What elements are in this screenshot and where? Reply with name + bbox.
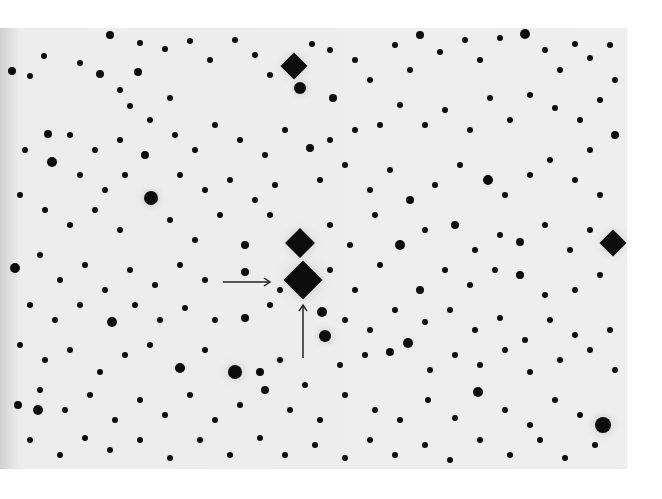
star [422,122,428,128]
star [542,222,548,228]
star [237,402,243,408]
star [392,42,398,48]
star [352,287,358,293]
bright-star [604,234,622,252]
star [77,60,83,66]
star [127,267,133,273]
star [67,347,73,353]
star [167,455,173,461]
star [132,302,138,308]
star [377,122,383,128]
star [572,332,578,338]
star [202,347,208,353]
star [277,287,283,293]
star [587,347,593,353]
star [472,247,478,253]
star [392,452,398,458]
star [592,442,598,448]
star [587,55,593,61]
star [403,338,413,348]
star [327,47,333,53]
star [177,262,183,268]
star [27,437,33,443]
star [197,437,203,443]
star [362,352,368,358]
star [192,237,198,243]
star [267,72,273,78]
star [27,73,33,79]
star [309,41,315,47]
star [347,242,353,248]
star [502,407,508,413]
star [492,267,498,273]
star [102,287,108,293]
star [33,405,43,415]
star [527,422,533,428]
star [452,352,458,358]
star [442,267,448,273]
bright-star [285,57,303,75]
star [256,368,264,376]
star [467,127,473,133]
star [497,35,503,41]
star [597,192,603,198]
star [102,187,108,193]
star [192,147,198,153]
star [10,263,20,273]
star [112,417,118,423]
star [377,262,383,268]
star [352,57,358,63]
star [352,127,358,133]
star [107,317,117,327]
star [477,362,483,368]
star [447,457,453,463]
star [327,137,333,143]
star [462,37,468,43]
star [317,177,323,183]
star [306,144,314,152]
star [612,367,618,373]
star [147,117,153,123]
star [406,196,414,204]
star [252,197,258,203]
star [416,31,424,39]
star [212,317,218,323]
star [272,182,278,188]
star [212,122,218,128]
star [82,262,88,268]
star [552,397,558,403]
star-field-photo [0,28,627,469]
bright-star [228,365,242,379]
star [542,292,548,298]
star [57,452,63,458]
star [537,437,543,443]
star [262,152,268,158]
star [397,102,403,108]
star [175,363,185,373]
star [451,221,459,229]
bright-star [290,233,310,253]
star [257,435,263,441]
star [547,157,553,163]
star [187,392,193,398]
star [67,132,73,138]
star [342,162,348,168]
star [37,387,43,393]
star [106,31,114,39]
star [527,92,533,98]
bright-star [144,191,158,205]
star [467,282,473,288]
star [267,212,273,218]
star [137,397,143,403]
star [367,77,373,83]
star [8,67,16,75]
star [282,127,288,133]
star [597,97,603,103]
star [442,107,448,113]
star [427,367,433,373]
bright-star [319,330,331,342]
star [611,131,619,139]
star [527,172,533,178]
star [27,302,33,308]
star [572,41,578,47]
